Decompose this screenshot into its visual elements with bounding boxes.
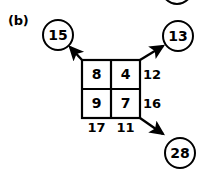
clipped-node-circle-top: [162, 0, 192, 4]
matrix-cell-r0c0: 8: [82, 67, 111, 81]
matrix-cell-r1c1: 7: [111, 96, 140, 110]
arrow-to-node-15: [70, 47, 82, 60]
node-label-bottom-right: 28: [165, 146, 195, 160]
panel-label: (b): [8, 13, 28, 28]
row-sum-1: 16: [143, 97, 165, 110]
matrix-cell-r1c0: 9: [82, 96, 111, 110]
node-label-top-left: 15: [43, 28, 73, 42]
column-sum-1: 11: [111, 121, 140, 134]
figure-panel-b: (b) 8 4 9 7 12 16 17 11 15 13 28: [0, 0, 208, 175]
matrix-cell-r0c1: 4: [111, 67, 140, 81]
node-label-top-right: 13: [163, 29, 193, 43]
arrow-to-node-13: [140, 46, 163, 60]
row-sum-0: 12: [143, 68, 165, 81]
arrow-to-node-28: [140, 118, 163, 134]
column-sum-0: 17: [82, 121, 111, 134]
